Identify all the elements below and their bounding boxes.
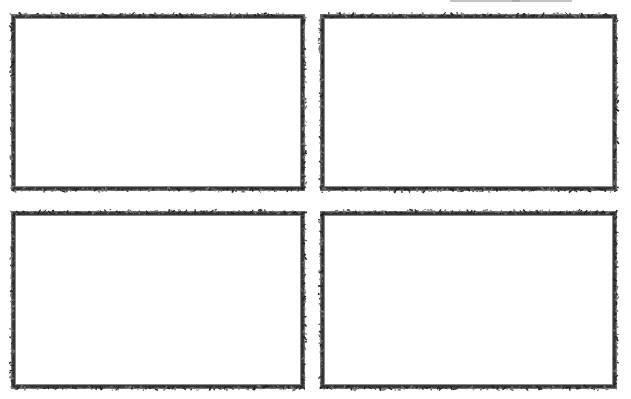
blank-frame-bottom-right: [321, 212, 616, 388]
top-edge-mark: [512, 0, 572, 2]
blank-frame-bottom-left: [12, 212, 304, 388]
blank-frame-top-left: [12, 15, 304, 190]
blank-frame-top-right: [321, 15, 616, 190]
top-edge-mark: [450, 0, 520, 2]
